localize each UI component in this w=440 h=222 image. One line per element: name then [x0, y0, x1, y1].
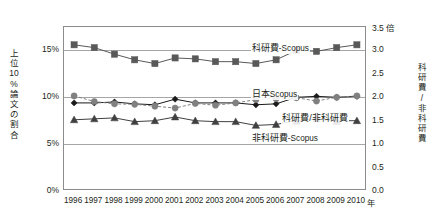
y-left-title-char: 10: [6, 68, 22, 78]
data-point-marker: [71, 93, 77, 99]
y-axis-left-tick-label: 10%: [33, 91, 59, 101]
y-left-title-char: 論: [6, 89, 22, 99]
series-label-latin: Scopus: [270, 90, 297, 99]
data-point-marker: [354, 42, 360, 48]
y-right-title-char: 研: [414, 72, 430, 82]
plot-area: [63, 26, 366, 190]
data-point-marker: [334, 94, 340, 100]
data-point-marker: [71, 42, 77, 48]
y-left-title-char: 位: [6, 58, 22, 68]
y-left-title-char: 上: [6, 48, 22, 58]
data-point-marker: [212, 59, 218, 65]
data-point-marker: [71, 100, 77, 106]
data-point-marker: [152, 60, 158, 66]
y-right-title-char: 非: [414, 103, 430, 113]
y-axis-left-tick-label: 0%: [33, 185, 59, 195]
y-left-title-char: 割: [6, 119, 22, 129]
data-point-marker: [171, 113, 178, 120]
y-axis-right-title: 科 研 費 / 非 科 研 費: [414, 62, 430, 144]
x-axis-unit-label: 年: [367, 196, 375, 208]
y-axis-right-tick-label: 2.0: [372, 91, 406, 101]
data-point-marker: [132, 57, 138, 63]
y-left-title-char: 文: [6, 99, 22, 109]
data-point-marker: [91, 98, 97, 104]
series-label-jp: 科研費/非科研費: [282, 113, 348, 123]
data-point-marker: [233, 100, 239, 106]
data-point-marker: [172, 96, 178, 102]
y-axis-right-tick-label: 2.5: [372, 68, 406, 78]
data-point-marker: [313, 48, 319, 54]
data-point-marker: [233, 59, 239, 65]
data-point-marker: [192, 56, 198, 62]
y-axis-right-tick-label: 1.5: [372, 115, 406, 125]
data-point-marker: [334, 45, 340, 51]
series-label-日本Scopus: 日本Scopus: [251, 87, 298, 100]
y-right-title-char: 研: [414, 123, 430, 133]
data-point-marker: [253, 60, 259, 66]
y-axis-left-tick-label: 5%: [33, 138, 59, 148]
data-point-marker: [273, 57, 279, 63]
series-label-latin: -Scopus: [288, 134, 318, 143]
y-right-title-char: 費: [414, 133, 430, 143]
data-point-marker: [91, 45, 97, 51]
y-axis-left-tick-label: 15%: [33, 44, 59, 54]
data-point-marker: [212, 102, 218, 108]
y-axis-left-title: 上 位 10 % 論 文 の 割 合: [6, 48, 22, 140]
series-layer: [64, 27, 367, 191]
series-label-科研費/非科研費: 科研費/非科研費: [281, 111, 349, 124]
y-axis-right-tick-label: 3.5 倍: [372, 21, 406, 33]
y-right-title-char: 科: [414, 113, 430, 123]
data-point-marker: [354, 93, 360, 99]
x-axis-tick-label: 2010: [343, 196, 369, 205]
y-left-title-char: の: [6, 109, 22, 119]
y-right-title-char: 費: [414, 82, 430, 92]
y-left-title-char: 合: [6, 130, 22, 140]
series-label-非科研費-Scopus: 非科研費-Scopus: [251, 131, 319, 144]
data-point-marker: [172, 105, 178, 111]
series-label-科研費-Scopus: 科研費-Scopus: [251, 41, 310, 54]
data-point-marker: [132, 101, 138, 107]
data-point-marker: [172, 55, 178, 61]
y-right-title-char: 科: [414, 62, 430, 72]
data-point-marker: [192, 100, 198, 106]
data-point-marker: [152, 103, 158, 109]
y-axis-right-tick-label: 1.0: [372, 138, 406, 148]
y-axis-right-tick-label: 0.0: [372, 185, 406, 195]
series-label-jp: 非科研費: [252, 133, 288, 143]
series-label-jp: 日本: [252, 89, 270, 99]
series-label-jp: 科研費: [252, 43, 279, 53]
series-label-latin: -Scopus: [279, 44, 309, 53]
y-right-title-char: /: [414, 93, 430, 103]
y-axis-right-tick-label: 3.0: [372, 44, 406, 54]
y-left-title-char: %: [6, 79, 22, 89]
data-point-marker: [313, 98, 319, 104]
data-point-marker: [111, 101, 117, 107]
data-point-marker: [111, 51, 117, 57]
chart-container: 上 位 10 % 論 文 の 割 合 科 研 費 / 非 科 研 費 0%5%1…: [0, 0, 440, 222]
y-axis-right-tick-label: 0.5: [372, 162, 406, 172]
